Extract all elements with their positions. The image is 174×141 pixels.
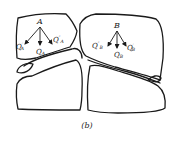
- vector-q-prime-a-arrow: [25, 27, 40, 44]
- vector-q-a-label: QA: [36, 48, 46, 56]
- vector-q-prime-b-arrow: [117, 31, 126, 46]
- vector-q-prime-a-label: Q′A: [16, 42, 25, 51]
- vector-q-double-prime-b-arrow: [108, 31, 117, 46]
- vector-q-b-label: QB: [114, 51, 124, 59]
- vector-q-double-prime-b-label: Q″B: [92, 41, 103, 50]
- vector-q-double-prime-a-arrow: [40, 27, 52, 44]
- point-a-label: A: [36, 17, 43, 26]
- vector-q-double-prime-a-label: Q″A: [53, 35, 64, 44]
- grain-bottom-left: [16, 60, 82, 110]
- grain-bottom-right: [87, 65, 165, 113]
- vector-q-prime-b-label: Q′B: [127, 43, 136, 52]
- figure-caption: (b): [0, 121, 174, 130]
- point-b-label: B: [113, 21, 120, 30]
- grain-diagram: A Q′A QA Q″A B Q″B QB Q′B: [0, 0, 174, 141]
